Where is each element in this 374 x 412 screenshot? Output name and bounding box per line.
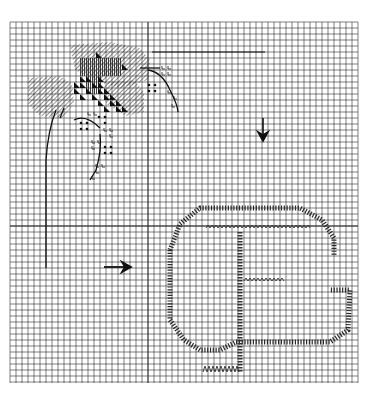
cross-stitch-chart (0, 0, 374, 412)
paper-background (0, 0, 374, 412)
